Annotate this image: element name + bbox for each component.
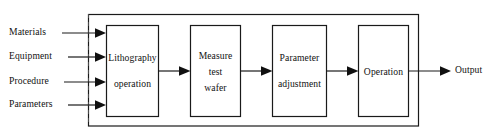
input-arrowhead-parameters xyxy=(95,100,106,110)
input-arrowhead-procedure xyxy=(95,77,106,87)
input-arrowhead-equipment xyxy=(95,52,106,62)
input-label-equipment: Equipment xyxy=(9,51,52,61)
diagram-vector-layer xyxy=(0,0,497,137)
block-label-parameter-line1: Parameter xyxy=(271,51,328,64)
block-lithography xyxy=(107,26,159,117)
input-arrowhead-materials xyxy=(95,28,106,38)
block-label-operation: Operation xyxy=(357,65,410,78)
output-label: Output xyxy=(455,65,482,75)
arrowhead-lithography-to-measure xyxy=(179,66,191,76)
input-label-parameters: Parameters xyxy=(9,99,53,109)
block-label-parameter-line2: adjustment xyxy=(271,77,328,90)
diagram-canvas: Materials Equipment Procedure Parameters… xyxy=(0,0,497,137)
block-label-measure-line3: wafer xyxy=(190,81,241,94)
block-parameter-adjustment xyxy=(273,26,327,117)
input-label-materials: Materials xyxy=(9,27,46,37)
arrowhead-operation-to-output xyxy=(440,66,451,76)
block-label-lithography-line1: Lithography xyxy=(106,51,159,64)
arrowhead-measure-to-parameter xyxy=(261,66,273,76)
block-label-measure-line2: test xyxy=(190,65,241,78)
block-label-lithography-line2: operation xyxy=(106,77,159,90)
input-label-procedure: Procedure xyxy=(9,76,49,86)
block-label-measure-line1: Measure xyxy=(190,49,241,62)
